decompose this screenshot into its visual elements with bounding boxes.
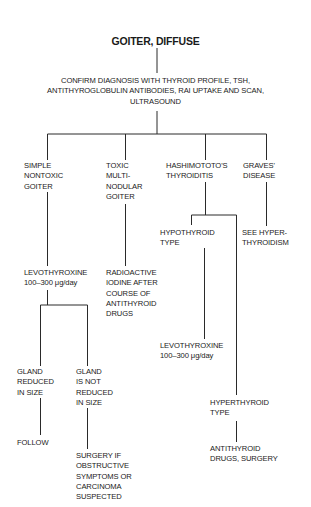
node-line: HASHIMOTOTO'S [166, 161, 227, 171]
node-line: SIMPLE [24, 161, 63, 171]
simple-levothyroxine-node: LEVOTHYROXINE 100–300 μg/day [24, 268, 87, 289]
node-line: LEVOTHYROXINE [160, 341, 223, 351]
node-line: GLAND [17, 367, 54, 377]
follow-node: FOLLOW [17, 438, 48, 448]
node-line: SUSPECTED [76, 492, 132, 502]
node-line: FOLLOW [17, 438, 48, 448]
hypothyroid-type-node: HYPOTHYROID TYPE [160, 228, 215, 249]
node-line: ANTITHYROID [106, 299, 158, 309]
gland-reduced-node: GLAND REDUCED IN SIZE [17, 367, 54, 398]
node-line: HYPOTHYROID [160, 228, 215, 238]
node-line: GOITER [24, 182, 63, 192]
node-line: OBSTRUCTIVE [76, 461, 132, 471]
node-line: DRUGS, SURGERY [210, 454, 278, 464]
hypo-levothyroxine-node: LEVOTHYROXINE 100–300 μg/day [160, 341, 223, 362]
node-line: TOXIC [106, 161, 142, 171]
node-line: CARCINOMA [76, 482, 132, 492]
node-line: IODINE AFTER [106, 278, 158, 288]
node-line: IS NOT [76, 377, 113, 387]
node-line: IN SIZE [17, 388, 54, 398]
hyperthyroid-type-node: HYPERTHYROID TYPE [210, 398, 269, 419]
node-line: NONTOXIC [24, 171, 63, 181]
toxic-multinodular-goiter-node: TOXIC MULTI- NODULAR GOITER [106, 161, 142, 202]
node-line: 100–300 μg/day [24, 278, 87, 288]
node-line: HYPERTHYROID [210, 398, 269, 408]
node-line: NODULAR [106, 182, 142, 192]
node-line: TYPE [210, 408, 269, 418]
hashimoto-thyroiditis-node: HASHIMOTOTO'S THYROIDITIS [166, 161, 227, 182]
node-line: SYMPTOMS OR [76, 472, 132, 482]
node-line: DISEASE [243, 171, 275, 181]
gland-not-reduced-node: GLAND IS NOT REDUCED IN SIZE [76, 367, 113, 408]
see-hyperthyroidism-node: SEE HYPER- THYROIDISM [242, 228, 289, 249]
confirm-line-3: ULTRASOUND [0, 97, 311, 107]
confirm-diagnosis-node: CONFIRM DIAGNOSIS WITH THYROID PROFILE, … [0, 76, 311, 107]
node-line: SURGERY IF [76, 451, 132, 461]
confirm-line-1: CONFIRM DIAGNOSIS WITH THYROID PROFILE, … [0, 76, 311, 86]
node-line: GLAND [76, 367, 113, 377]
node-line: TYPE [160, 238, 215, 248]
diagram-title: GOITER, DIFFUSE [0, 35, 311, 47]
node-line: REDUCED [17, 377, 54, 387]
node-line: ANTITHYROID [210, 444, 278, 454]
node-line: LEVOTHYROXINE [24, 268, 87, 278]
node-line: MULTI- [106, 171, 142, 181]
node-line: THYROIDITIS [166, 171, 227, 181]
node-line: GOITER [106, 192, 142, 202]
node-line: IN SIZE [76, 398, 113, 408]
node-line: THYROIDISM [242, 238, 289, 248]
graves-disease-node: GRAVES' DISEASE [243, 161, 275, 182]
node-line: GRAVES' [243, 161, 275, 171]
antithyroid-drugs-surgery-node: ANTITHYROID DRUGS, SURGERY [210, 444, 278, 465]
simple-nontoxic-goiter-node: SIMPLE NONTOXIC GOITER [24, 161, 63, 192]
radioactive-iodine-node: RADIOACTIVE IODINE AFTER COURSE OF ANTIT… [106, 268, 158, 319]
node-line: SEE HYPER- [242, 228, 289, 238]
node-line: 100–300 μg/day [160, 351, 223, 361]
node-line: RADIOACTIVE [106, 268, 158, 278]
node-line: REDUCED [76, 388, 113, 398]
node-line: DRUGS [106, 309, 158, 319]
node-line: COURSE OF [106, 289, 158, 299]
confirm-line-2: ANTITHYROGLOBULIN ANTIBODIES, RAI UPTAKE… [0, 86, 311, 96]
surgery-node: SURGERY IF OBSTRUCTIVE SYMPTOMS OR CARCI… [76, 451, 132, 502]
